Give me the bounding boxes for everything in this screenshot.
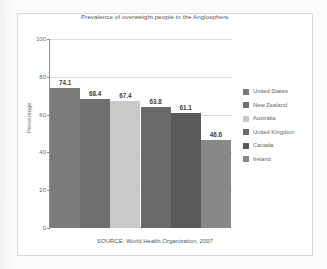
chart-screenshot: Prevalence of overweight people in the A… [0,0,327,269]
y-axis-tick-mark [47,228,50,229]
chart-legend: United StatesNew ZealandAustraliaUnited … [243,88,311,169]
legend-item-new-zealand[interactable]: New Zealand [243,102,311,109]
legend-item-canada[interactable]: Canada [243,142,311,149]
legend-item-label: Australia [253,115,276,122]
y-axis-title: Percentage [26,102,32,133]
legend-item-label: United States [253,88,288,95]
bar-fill [141,107,171,228]
legend-swatch-icon [243,156,249,162]
y-axis-tick-label: 80 [39,74,46,80]
bar-fill [50,88,80,228]
bar-value-label: 46.6 [210,131,222,138]
gridline [50,228,232,229]
scan-edge-line [3,20,4,200]
chart-title: Prevalence of overweight people in the A… [40,13,270,20]
y-axis-tick-label: 100 [36,36,46,42]
legend-item-united-kingdom[interactable]: United Kingdom [243,129,311,136]
bar-value-label: 61.1 [180,104,192,111]
bar-australia[interactable]: 67.4 [110,101,140,228]
bars-group: 74.168.467.463.861.146.6 [50,39,231,228]
legend-swatch-icon [243,89,249,95]
source-note: SOURCE: World Health Organization, 2007 [40,238,270,244]
legend-swatch-icon [243,102,249,108]
legend-item-label: Canada [253,142,273,149]
y-axis-tick-label: 60 [39,112,46,118]
bar-value-label: 63.8 [149,98,161,105]
y-axis-tick-label: 0 [43,225,46,231]
bar-ireland[interactable]: 46.6 [201,140,231,228]
bar-fill [80,99,110,228]
bar-canada[interactable]: 61.1 [171,113,201,228]
bar-fill [171,113,201,228]
legend-item-label: Ireland [253,156,271,163]
bar-united-states[interactable]: 74.1 [50,88,80,228]
legend-item-australia[interactable]: Australia [243,115,311,122]
y-axis-tick-label: 20 [39,187,46,193]
bar-value-label: 67.4 [119,92,131,99]
legend-item-label: United Kingdom [253,129,294,136]
legend-item-label: New Zealand [253,102,287,109]
bar-fill [110,101,140,228]
bar-new-zealand[interactable]: 68.4 [80,99,110,228]
legend-swatch-icon [243,143,249,149]
bar-value-label: 74.1 [59,79,71,86]
bar-fill [201,140,231,228]
bar-united-kingdom[interactable]: 63.8 [141,107,171,228]
y-axis-tick-label: 40 [39,149,46,155]
legend-swatch-icon [243,116,249,122]
bar-value-label: 68.4 [89,90,101,97]
legend-swatch-icon [243,129,249,135]
legend-item-united-states[interactable]: United States [243,88,311,95]
legend-item-ireland[interactable]: Ireland [243,156,311,163]
